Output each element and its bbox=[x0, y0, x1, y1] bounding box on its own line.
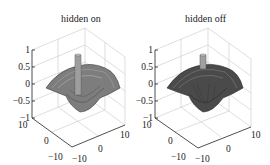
svg-text:0: 0 bbox=[98, 144, 103, 154]
svg-text:0: 0 bbox=[148, 79, 153, 89]
svg-text:0.5: 0.5 bbox=[141, 62, 153, 72]
svg-text:0: 0 bbox=[226, 144, 231, 154]
svg-text:0.5: 0.5 bbox=[18, 62, 30, 72]
plot-hidden-on: hidden on bbox=[0, 0, 135, 165]
svg-text:−10: −10 bbox=[48, 152, 63, 162]
svg-text:10: 10 bbox=[251, 130, 261, 140]
surface-plot-3d: 1 0.5 0 −0.5 −1 10 0 −10 −10 0 10 bbox=[0, 0, 135, 165]
x-axis-ticks: −10 0 10 bbox=[195, 130, 261, 164]
y-axis-ticks: 10 0 −10 bbox=[18, 120, 63, 162]
svg-text:10: 10 bbox=[142, 120, 152, 130]
svg-text:0: 0 bbox=[25, 79, 30, 89]
svg-text:10: 10 bbox=[120, 130, 130, 140]
svg-text:−0.5: −0.5 bbox=[136, 96, 153, 106]
plot-title: hidden off bbox=[185, 13, 226, 24]
mesh-surface bbox=[167, 54, 243, 112]
plot-title: hidden on bbox=[61, 13, 101, 24]
svg-text:1: 1 bbox=[148, 45, 153, 55]
surface-plot-3d: 1 0.5 0 −0.5 −1 10 0 −10 −10 0 10 bbox=[135, 0, 270, 165]
z-axis-ticks: 1 0.5 0 −0.5 −1 bbox=[13, 45, 30, 123]
svg-text:−10: −10 bbox=[195, 154, 210, 164]
y-axis-ticks: 10 0 −10 bbox=[142, 120, 186, 162]
plot-hidden-off: hidden off bbox=[135, 0, 270, 165]
svg-text:0: 0 bbox=[44, 136, 49, 146]
svg-text:1: 1 bbox=[25, 45, 30, 55]
svg-text:−0.5: −0.5 bbox=[13, 96, 30, 106]
svg-text:10: 10 bbox=[18, 120, 28, 130]
svg-text:−10: −10 bbox=[72, 154, 87, 164]
svg-text:−10: −10 bbox=[171, 152, 186, 162]
z-axis-ticks: 1 0.5 0 −0.5 −1 bbox=[136, 45, 153, 123]
svg-text:0: 0 bbox=[168, 136, 173, 146]
